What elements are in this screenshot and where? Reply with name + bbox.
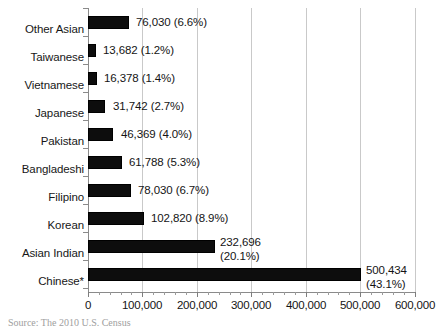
x-axis-ticklabel-600000: 600,000 — [380, 299, 440, 312]
bar-value-asian-indian-line1: 232,696 — [220, 236, 261, 249]
bar-value-chinese-line1: 500,434 — [366, 264, 407, 277]
bar-vietnamese — [88, 72, 97, 85]
y-axis-label-taiwanese: Taiwanese — [0, 51, 84, 63]
y-axis-label-japanese: Japanese — [0, 107, 84, 119]
bar-pakistan — [88, 128, 113, 141]
bar-value-japanese: 31,742 (2.7%) — [113, 100, 184, 113]
y-axis-label-bangladeshi: Bangladeshi — [0, 163, 84, 175]
y-axis-label-filipino: Filipino — [0, 191, 84, 203]
bar-value-filipino: 78,030 (6.7%) — [138, 184, 209, 197]
bar-value-pakistan: 46,369 (4.0%) — [121, 128, 192, 141]
source-note: Source: The 2010 U.S. Census — [8, 317, 248, 328]
y-axis-label-asian-indian: Asian Indian — [0, 247, 84, 259]
plot-area: 76,030 (6.6%) 13,682 (1.2%) 16,378 (1.4%… — [88, 8, 415, 293]
bar-value-bangladeshi: 61,788 (5.3%) — [129, 156, 200, 169]
bar-filipino — [88, 184, 131, 197]
bar-bangladeshi — [88, 156, 122, 169]
y-axis-category-labels: Other Asian Taiwanese Vietnamese Japanes… — [0, 8, 84, 293]
bar-taiwanese — [88, 44, 96, 57]
gridline-600000 — [415, 8, 416, 293]
x-axis-tick-600000 — [415, 292, 416, 297]
bar-asian-indian — [88, 240, 215, 253]
y-axis-label-chinese: Chinese* — [0, 275, 84, 287]
bar-japanese — [88, 100, 105, 113]
bar-value-chinese-line2: (43.1%) — [366, 278, 406, 291]
bar-korean — [88, 212, 144, 225]
bar-value-taiwanese: 13,682 (1.2%) — [103, 44, 174, 57]
bar-value-other-asian: 76,030 (6.6%) — [136, 16, 207, 29]
y-axis-label-vietnamese: Vietnamese — [0, 79, 84, 91]
bar-other-asian — [88, 16, 129, 29]
bar-value-korean: 102,820 (8.9%) — [151, 212, 228, 225]
y-axis-label-other-asian: Other Asian — [0, 23, 84, 35]
bar-value-vietnamese: 16,378 (1.4%) — [104, 72, 175, 85]
y-axis-label-pakistan: Pakistan — [0, 135, 84, 147]
bar-chinese — [88, 268, 361, 281]
y-axis-label-korean: Korean — [0, 219, 84, 231]
bar-value-asian-indian-line2: (20.1%) — [220, 250, 260, 263]
